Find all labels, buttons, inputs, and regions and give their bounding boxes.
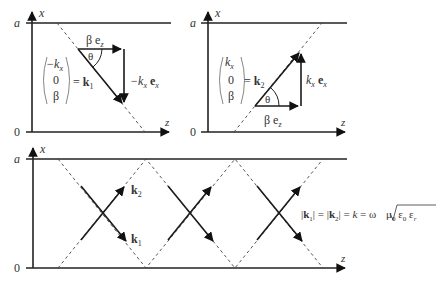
vector-entry-3: β xyxy=(228,89,234,103)
panel-bottom: a 0 x z k2 k1 |k1| = |k2| = k = ω μ0 ε0 … xyxy=(14,142,436,275)
panel-top-right: a 0 x z kx 0 β = k2 θ β ez kxex xyxy=(190,6,347,139)
tick-label-0: 0 xyxy=(14,261,20,275)
axis-label-z: z xyxy=(340,116,346,128)
vector-entry-1: kx xyxy=(225,55,234,71)
vector-equals-k2: = k2 xyxy=(244,74,264,90)
vector-entry-1: −kx xyxy=(46,57,63,73)
beta-ez-label: β ez xyxy=(264,113,282,129)
angle-arc xyxy=(271,88,279,106)
theta-label: θ xyxy=(265,93,270,105)
wavenumber-formula: |k1| = |k2| = k = ω μ0 ε0 εr xyxy=(301,208,417,223)
minus-kx-ex-label: −kxex xyxy=(130,74,159,90)
vector-entry-3: β xyxy=(53,89,59,103)
vector-entry-2: 0 xyxy=(53,73,59,87)
tick-label-a: a xyxy=(14,152,20,166)
angle-arc xyxy=(93,49,102,67)
tick-label-a: a xyxy=(14,16,20,30)
k2-label: k2 xyxy=(131,183,142,199)
left-paren xyxy=(220,57,224,104)
beta-ez-label: β ez xyxy=(86,33,104,49)
axis-label-z: z xyxy=(164,116,170,128)
k2-vector-arrow xyxy=(255,53,299,106)
tick-label-0: 0 xyxy=(190,125,196,139)
axis-label-x: x xyxy=(38,6,45,20)
right-paren xyxy=(66,57,70,104)
axis-label-z: z xyxy=(340,252,346,264)
tick-label-0: 0 xyxy=(14,125,20,139)
vector-equals-k1: = k1 xyxy=(73,75,93,91)
panel-top-left: a 0 x z −kx 0 β = k1 θ β ez −kxex xyxy=(14,6,171,139)
axis-label-x: x xyxy=(39,142,46,156)
vector-entry-2: 0 xyxy=(228,73,234,87)
waveguide-diagram: a 0 x z −kx 0 β = k1 θ β ez −kxex a 0 x … xyxy=(0,0,438,281)
k1-label: k1 xyxy=(131,232,142,248)
theta-label: θ xyxy=(88,50,93,62)
kx-ex-label: kxex xyxy=(306,73,327,89)
tick-label-a: a xyxy=(190,16,196,30)
axis-label-x: x xyxy=(214,6,221,20)
